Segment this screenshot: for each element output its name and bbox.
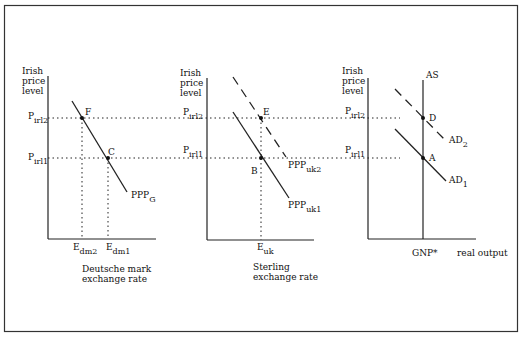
point-a <box>421 156 425 160</box>
gnp-star-label: GNP* <box>412 248 438 258</box>
ppp-diagram: Irish price level Pirl2 Pirl1 F C PPPG E… <box>0 0 522 347</box>
y-axis-label-1: Irish <box>342 66 363 76</box>
y-axis-label-1: Irish <box>180 68 201 78</box>
point-f-label: F <box>85 107 91 117</box>
y-axis-label-2: price <box>180 78 203 88</box>
x-axis-label-2: exchange rate <box>253 272 318 282</box>
as-label: AS <box>425 70 439 80</box>
x-axis-label-2: exchange rate <box>82 274 147 284</box>
point-f <box>80 116 84 120</box>
point-d-label: D <box>429 113 436 123</box>
x-axis-label: real output <box>457 248 508 258</box>
point-d <box>421 116 425 120</box>
y-axis-label-2: price <box>22 76 45 86</box>
y-axis-label-3: level <box>342 86 364 96</box>
y-axis-label-2: price <box>342 76 365 86</box>
point-b-label: B <box>251 166 258 176</box>
y-axis-label-1: Irish <box>22 66 43 76</box>
point-b <box>259 156 263 160</box>
point-a-label: A <box>428 153 436 163</box>
y-axis-label-3: level <box>22 86 44 96</box>
x-axis-label-1: Sterling <box>253 262 290 272</box>
x-axis-label-1: Deutsche mark <box>82 264 152 274</box>
y-axis-label-3: level <box>180 88 202 98</box>
point-e-label: E <box>263 107 270 117</box>
point-c-label: C <box>108 147 115 157</box>
